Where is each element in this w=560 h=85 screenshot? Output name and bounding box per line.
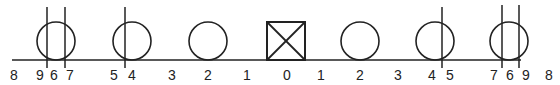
vertical-markers [47, 5, 519, 68]
tick-label: 1 [317, 67, 325, 83]
tick-label: 6 [50, 67, 58, 83]
tick-label: 8 [545, 67, 553, 83]
tick-label: 7 [490, 67, 498, 83]
tick-label: 5 [446, 67, 454, 83]
tick-labels: 8967543210123457698 [10, 67, 553, 83]
number-line-diagram: 8967543210123457698 [0, 0, 560, 85]
circle-left-4 [113, 22, 151, 60]
circle-left-6 [37, 22, 75, 60]
circle-right-6 [490, 22, 528, 60]
tick-label: 5 [110, 67, 118, 83]
circle-right-4 [416, 22, 454, 60]
tick-label: 9 [522, 67, 530, 83]
tick-label: 1 [243, 67, 251, 83]
tick-label: 3 [394, 67, 402, 83]
tick-label: 9 [36, 67, 44, 83]
tick-label: 6 [506, 67, 514, 83]
tick-label: 2 [356, 67, 364, 83]
tick-label: 4 [128, 67, 136, 83]
shapes-group [37, 22, 528, 60]
circle-left-2 [189, 22, 227, 60]
tick-label: 2 [204, 67, 212, 83]
tick-label: 7 [66, 67, 74, 83]
tick-label: 8 [10, 67, 18, 83]
tick-label: 4 [428, 67, 436, 83]
circle-right-2 [341, 22, 379, 60]
tick-label: 0 [283, 67, 291, 83]
crossed-box-center-0 [267, 22, 305, 60]
tick-label: 3 [168, 67, 176, 83]
